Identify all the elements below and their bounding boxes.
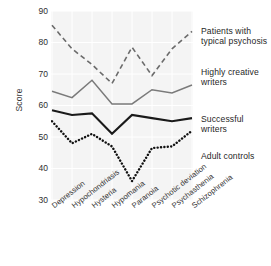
legend-entry: Adult controls — [201, 151, 271, 161]
legend-entry: Patients with typical psychosis — [201, 26, 271, 47]
line-chart-figure: Score 90807060504030 DepressionHypochond… — [0, 0, 271, 266]
legend-entry: Highly creative writers — [201, 67, 271, 88]
legend-entry: Successful writers — [201, 114, 271, 135]
